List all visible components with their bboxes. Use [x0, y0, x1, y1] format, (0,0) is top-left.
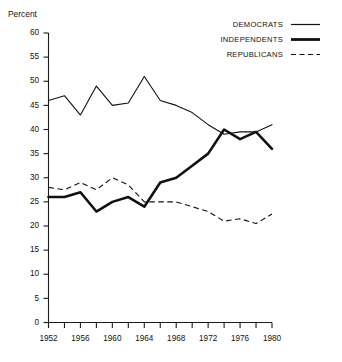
x-axis-tick-labels: 19521956196019641968197219761980: [39, 334, 281, 343]
party-identification-line-chart: Percent 051015202530354045505560 1952195…: [0, 0, 342, 362]
chart-canvas: Percent 051015202530354045505560 1952195…: [0, 0, 342, 362]
y-tick-label-40: 40: [30, 125, 40, 134]
legend-item-democrats: DEMOCRATS: [233, 20, 320, 29]
x-tick-label-1964: 1964: [135, 334, 154, 343]
x-axis-ticks: [49, 323, 273, 329]
y-tick-label-5: 5: [34, 294, 39, 303]
legend: DEMOCRATS INDEPENDENTS REPUBLICANS: [221, 20, 321, 59]
x-tick-label-1952: 1952: [39, 334, 58, 343]
y-axis-title-group: Percent: [8, 9, 38, 19]
y-axis-tick-labels: 051015202530354045505560: [30, 28, 40, 327]
y-tick-label-60: 60: [30, 28, 40, 37]
x-tick-label-1972: 1972: [199, 334, 218, 343]
legend-label-democrats: DEMOCRATS: [233, 20, 283, 29]
y-tick-label-25: 25: [30, 197, 40, 206]
x-tick-label-1976: 1976: [231, 334, 250, 343]
series-line-independents: [49, 130, 273, 212]
legend-item-independents: INDEPENDENTS: [221, 35, 321, 44]
y-tick-label-35: 35: [30, 149, 40, 158]
y-axis-ticks: [44, 33, 49, 323]
x-tick-label-1956: 1956: [71, 334, 90, 343]
y-tick-label-20: 20: [30, 221, 40, 230]
legend-label-independents: INDEPENDENTS: [221, 35, 284, 44]
y-tick-label-30: 30: [30, 173, 40, 182]
x-tick-label-1960: 1960: [103, 334, 122, 343]
y-tick-label-55: 55: [30, 52, 40, 61]
data-series-group: [49, 76, 273, 223]
y-tick-label-15: 15: [30, 245, 40, 254]
legend-label-republicans: REPUBLICANS: [227, 50, 283, 59]
legend-item-republicans: REPUBLICANS: [227, 50, 320, 59]
series-line-democrats: [49, 76, 273, 134]
y-tick-label-45: 45: [30, 101, 40, 110]
y-tick-label-0: 0: [34, 318, 39, 327]
y-tick-label-10: 10: [30, 269, 40, 278]
x-tick-label-1968: 1968: [167, 334, 186, 343]
y-axis-title: Percent: [8, 9, 38, 19]
x-tick-label-1980: 1980: [263, 334, 282, 343]
y-tick-label-50: 50: [30, 76, 40, 85]
